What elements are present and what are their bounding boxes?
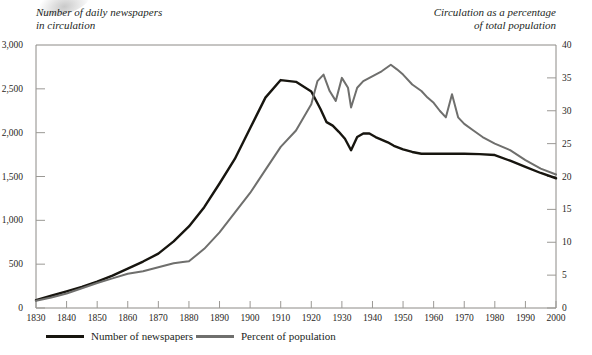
y-right-tick-label: 40 <box>562 40 572 50</box>
plot-area <box>0 0 592 355</box>
y-right-tick-label: 5 <box>562 270 567 280</box>
y-left-tick-label: 2,000 <box>0 128 23 138</box>
x-tick-label: 1850 <box>88 313 107 323</box>
x-tick-label: 1840 <box>57 313 76 323</box>
newspaper-circulation-chart: Number of daily newspapers in circulatio… <box>0 0 592 355</box>
legend-label-percent: Percent of population <box>241 329 336 343</box>
x-tick-label: 1890 <box>210 313 229 323</box>
y-right-tick-label: 0 <box>562 303 567 313</box>
series-line-newspapers <box>36 80 556 300</box>
x-tick-label: 1900 <box>241 313 260 323</box>
y-left-tick-label: 3,000 <box>0 40 23 50</box>
y-right-tick-label: 15 <box>562 204 572 214</box>
x-tick-label: 1960 <box>424 313 443 323</box>
x-tick-label: 1980 <box>485 313 504 323</box>
x-tick-label: 1950 <box>394 313 413 323</box>
y-left-tick-label: 0 <box>0 303 23 313</box>
y-left-tick-label: 1,500 <box>0 172 23 182</box>
x-tick-label: 1970 <box>455 313 474 323</box>
plot-frame <box>36 45 556 308</box>
y-left-tick-label: 2,500 <box>0 84 23 94</box>
x-tick-label: 1920 <box>302 313 321 323</box>
data-series <box>36 65 556 301</box>
x-tick-label: 1910 <box>271 313 290 323</box>
series-line-percent <box>36 65 556 301</box>
chart-legend: Number of newspapers Percent of populati… <box>0 325 592 351</box>
x-tick-label: 1940 <box>363 313 382 323</box>
x-tick-label: 1870 <box>149 313 168 323</box>
y-right-tick-label: 30 <box>562 106 572 116</box>
y-left-tick-label: 1,000 <box>0 215 23 225</box>
legend-label-newspapers: Number of newspapers <box>91 329 193 343</box>
legend-swatch-percent <box>196 335 234 338</box>
x-tick-label: 1830 <box>27 313 46 323</box>
legend-item-newspapers: Number of newspapers <box>46 329 193 343</box>
x-tick-label: 1880 <box>179 313 198 323</box>
y-right-tick-label: 10 <box>562 237 572 247</box>
y-right-tick-label: 20 <box>562 172 572 182</box>
x-tick-label: 1930 <box>332 313 351 323</box>
y-right-tick-label: 25 <box>562 139 572 149</box>
axis-ticks <box>36 78 556 308</box>
x-tick-label: 1860 <box>118 313 137 323</box>
x-tick-label: 2000 <box>547 313 566 323</box>
y-right-tick-label: 35 <box>562 73 572 83</box>
legend-swatch-newspapers <box>46 335 84 338</box>
legend-item-percent: Percent of population <box>196 329 336 343</box>
x-tick-label: 1990 <box>516 313 535 323</box>
y-left-tick-label: 500 <box>0 259 23 269</box>
